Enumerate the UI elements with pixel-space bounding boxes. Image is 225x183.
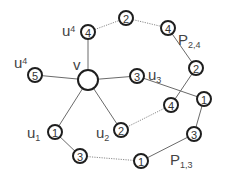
node-p24a: 2 bbox=[119, 11, 133, 25]
svg-text:1: 1 bbox=[201, 94, 207, 106]
svg-text:3: 3 bbox=[191, 129, 197, 141]
edge-p24d-u2 bbox=[121, 105, 171, 130]
label-v: v bbox=[73, 56, 81, 73]
svg-text:4: 4 bbox=[165, 23, 171, 35]
svg-text:4: 4 bbox=[85, 27, 91, 39]
edge-p13a-p13b bbox=[80, 156, 141, 161]
svg-text:1: 1 bbox=[52, 127, 58, 139]
node-u3: 3 bbox=[130, 69, 144, 83]
svg-text:3: 3 bbox=[134, 71, 140, 83]
svg-text:5: 5 bbox=[32, 70, 38, 82]
node-u4b: 5 bbox=[28, 68, 42, 82]
label-u3: u3 bbox=[148, 66, 161, 85]
graph-diagram: 4 5 3 2 1 2 4 2 4 3 1 3 1 u4 u4 v u3 u2 … bbox=[0, 0, 225, 183]
node-p13c: 3 bbox=[187, 127, 201, 141]
node-u1: 1 bbox=[48, 125, 62, 139]
label-p24: P2,4 bbox=[178, 31, 201, 50]
node-u4a: 4 bbox=[81, 25, 95, 39]
label-u4-top: u4 bbox=[62, 22, 75, 39]
node-v bbox=[78, 70, 98, 90]
label-u1: u1 bbox=[27, 124, 40, 143]
svg-text:1: 1 bbox=[138, 156, 144, 168]
edge-p13b-p13c bbox=[141, 134, 194, 161]
svg-text:3: 3 bbox=[77, 151, 83, 163]
node-p24b: 4 bbox=[161, 21, 175, 35]
label-u2: u2 bbox=[96, 124, 109, 143]
label-p13: P1,3 bbox=[170, 151, 193, 170]
node-p24c: 2 bbox=[189, 61, 203, 75]
node-p24d: 4 bbox=[164, 98, 178, 112]
label-u4-left: u4 bbox=[14, 54, 27, 71]
node-u2: 2 bbox=[114, 123, 128, 137]
svg-text:2: 2 bbox=[193, 63, 199, 75]
svg-text:4: 4 bbox=[168, 100, 174, 112]
svg-text:2: 2 bbox=[123, 13, 129, 25]
node-p13d: 1 bbox=[197, 92, 211, 106]
node-p13a: 3 bbox=[73, 149, 87, 163]
svg-text:2: 2 bbox=[118, 125, 124, 137]
node-p13b: 1 bbox=[134, 154, 148, 168]
